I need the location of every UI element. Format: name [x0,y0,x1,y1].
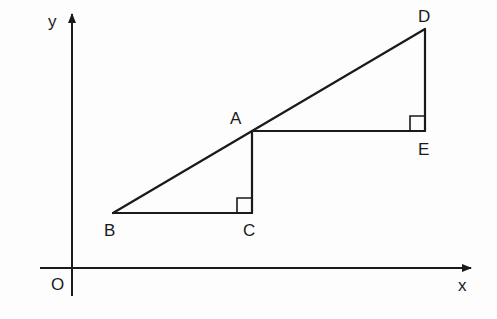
y-axis-label: y [48,12,57,31]
point-label-c: C [243,221,255,240]
x-axis-label: x [458,276,467,295]
right-angle-marker-e [410,116,425,131]
point-label-d: D [418,7,430,26]
right-angle-marker-c [237,198,252,213]
point-label-b: B [104,221,115,240]
point-label-a: A [230,109,242,128]
point-label-e: E [418,140,429,159]
geometry-diagram: y x O A B C D E [0,0,497,319]
segment-bd [113,29,425,213]
origin-label: O [51,275,64,294]
